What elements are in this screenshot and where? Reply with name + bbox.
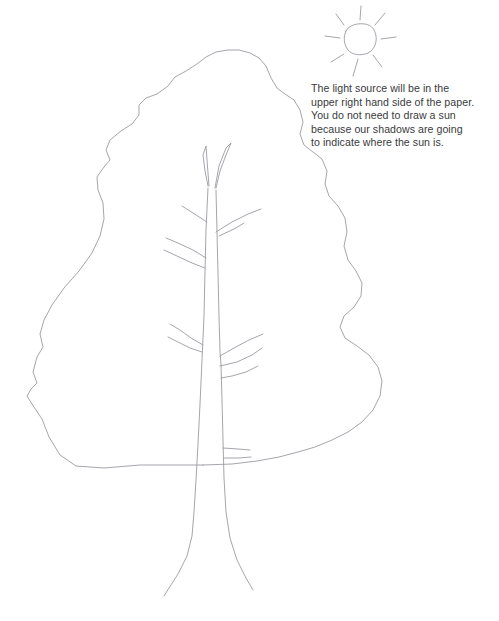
instruction-line-4: because our shadows are going (311, 123, 497, 137)
sun-body-icon (344, 24, 376, 55)
instruction-line-3: You do not need to draw a sun (311, 109, 497, 123)
instruction-line-5: to indicate where the sun is. (311, 136, 497, 150)
branch-right-upper (216, 209, 261, 232)
branch-right-sweep (221, 366, 258, 378)
branch-right-low-lower (224, 457, 251, 458)
trunk-right-edge (216, 190, 253, 590)
branch-left-lower-twig (168, 337, 202, 352)
instruction-line-2: upper right hand side of the paper. (311, 96, 497, 110)
branch-leader-left (203, 146, 209, 186)
worksheet-page: The light source will be in the upper ri… (0, 0, 499, 621)
branch-left-mid (166, 238, 206, 258)
trunk-left-edge (164, 188, 208, 596)
sun-ray-left (325, 36, 340, 38)
sun-ray-top-right (375, 13, 385, 25)
branch-left-lower (170, 324, 203, 345)
branch-right-mid-lower (220, 348, 262, 366)
sun-ray-bottom-right (373, 55, 382, 67)
branch-left-mid-lower (164, 250, 205, 268)
branch-right-low-upper (223, 448, 250, 450)
sun-ray-right (381, 37, 396, 39)
tree-branches (164, 143, 263, 458)
tree-trunk (164, 188, 253, 596)
sun-ray-bottom (353, 59, 358, 76)
sun-ray-bottom-left (331, 54, 344, 62)
branch-right-mid (220, 334, 263, 356)
branch-right-upper-twig (219, 223, 244, 236)
sun-ray-top (360, 6, 361, 20)
sun-icon (325, 6, 396, 76)
instruction-text-block: The light source will be in the upper ri… (311, 82, 497, 150)
instruction-line-1: The light source will be in the (311, 82, 497, 96)
branch-left-twig-upper (182, 206, 207, 222)
sun-ray-top-left (336, 14, 344, 25)
branch-leader-right (215, 143, 231, 188)
